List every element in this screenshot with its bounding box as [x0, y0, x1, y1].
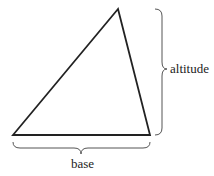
base-brace	[13, 142, 150, 154]
triangle-diagram: altitude base	[0, 0, 214, 176]
altitude-brace	[155, 9, 167, 135]
triangle	[13, 9, 150, 135]
base-label: base	[71, 156, 94, 171]
altitude-label: altitude	[170, 61, 209, 76]
